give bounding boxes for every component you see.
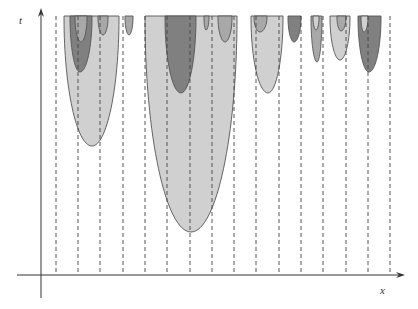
region-small-2 — [125, 16, 133, 35]
plot-svg: x t — [0, 0, 418, 309]
t-axis-label: t — [19, 14, 23, 26]
region-right-b — [288, 16, 301, 42]
x-axis-label: x — [379, 284, 385, 296]
diagram-canvas: x t — [0, 0, 418, 309]
regions-layer — [64, 16, 381, 232]
